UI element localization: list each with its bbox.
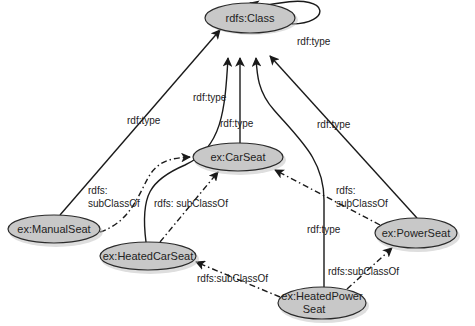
edge-label: rdfs: [88,185,107,196]
node-label: ex:HeatedPower [281,290,363,302]
edge-label: rdf:type [220,118,254,129]
node-heated-power-seat[interactable]: ex:HeatedPower Seat [278,287,369,323]
node-label: ex:ManualSeat [17,223,90,235]
edge-label: rdf:type [317,119,351,130]
node-car-seat[interactable]: ex:CarSeat [193,143,286,175]
node-label: Seat [303,303,326,315]
edge-label: rdf:type [193,92,227,103]
rdf-class-diagram: rdfs:Class ex:CarSeat ex:ManualSeat ex:H… [0,0,475,326]
edge-label: subClassOf [336,198,388,209]
node-label: rdfs:Class [226,12,275,24]
edge-label: rdfs:subClassOf [197,273,268,284]
edge-heated-power-seat-type [256,58,324,287]
node-label: ex:CarSeat [210,151,265,163]
node-label: ex:HeatedCarSeat [103,250,194,262]
node-rdfs-class[interactable]: rdfs:Class [205,3,298,35]
node-manual-seat[interactable]: ex:ManualSeat [8,215,103,247]
edge-label: subClassOf [88,198,140,209]
node-heated-car-seat[interactable]: ex:HeatedCarSeat [100,242,199,274]
edge-label: rdf:type [297,36,331,47]
node-power-seat[interactable]: ex:PowerSeat [375,218,460,252]
edge-label: rdfs: subClassOf [154,198,228,209]
edge-label: rdfs:subClassOf [328,266,399,277]
edge-label: rdf:type [127,115,161,126]
edge-label: rdf:type [307,224,341,235]
edge-label: rdfs: [336,185,355,196]
node-label: ex:PowerSeat [382,227,450,239]
